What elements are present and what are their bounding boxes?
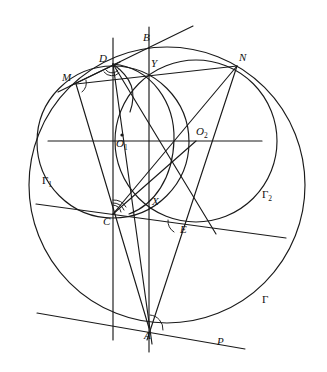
label-o1-letter: O xyxy=(116,137,124,149)
line-tangent-at-a xyxy=(37,313,245,349)
label-gamma: Γ xyxy=(262,294,268,305)
label-p: P xyxy=(217,336,224,347)
label-b: B xyxy=(143,32,150,43)
angle-mark-d-inner xyxy=(106,70,118,73)
label-c: C xyxy=(103,216,110,227)
label-o2-letter: O xyxy=(196,125,204,137)
label-gamma1-subscript: 1 xyxy=(48,180,52,189)
line-tangent-at-c xyxy=(36,204,286,238)
label-gamma2: Γ2 xyxy=(262,189,272,203)
label-d: D xyxy=(99,53,107,64)
label-gamma2-subscript: 2 xyxy=(268,194,272,203)
label-y: Y xyxy=(151,58,157,69)
label-o2-subscript: 2 xyxy=(204,131,208,140)
label-e: E xyxy=(180,224,187,235)
label-x: X xyxy=(152,196,159,207)
label-gamma1: Γ1 xyxy=(42,175,52,189)
label-o1-subscript: 1 xyxy=(124,143,128,152)
label-a: A xyxy=(144,330,151,341)
segment-de xyxy=(113,64,216,234)
label-m: M xyxy=(62,72,71,83)
label-o1: O1 xyxy=(116,138,128,152)
segment-na xyxy=(147,66,237,340)
label-o2: O2 xyxy=(196,126,208,140)
geometry-figure: M D B Y N O2 O1 Γ1 Γ2 Γ C X E A P xyxy=(0,0,327,372)
angle-mark-m xyxy=(82,80,86,92)
label-n: N xyxy=(239,52,246,63)
